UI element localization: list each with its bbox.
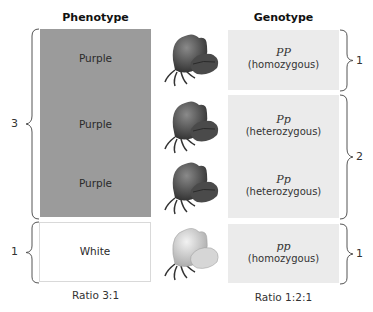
right-brace-1-icon bbox=[339, 29, 355, 92]
genotype-alleles: PP bbox=[228, 46, 339, 59]
left-brace-1-icon bbox=[24, 221, 40, 284]
phenotype-header: Phenotype bbox=[40, 11, 151, 24]
phenotype-count-white: 1 bbox=[11, 245, 18, 258]
genotype-cell: Pp (heterozygous) bbox=[228, 173, 339, 197]
phenotype-label: White bbox=[39, 245, 151, 257]
genotype-alleles: Pp bbox=[228, 113, 339, 126]
genotype-alleles: pp bbox=[228, 240, 339, 253]
genotype-zygosity: (homozygous) bbox=[228, 253, 339, 264]
phenotype-ratio: Ratio 3:1 bbox=[40, 289, 151, 301]
genotype-alleles: Pp bbox=[228, 173, 339, 186]
phenotype-label: Purple bbox=[40, 177, 151, 189]
genotype-count-PP: 1 bbox=[356, 54, 363, 67]
phenotype-label: Purple bbox=[40, 52, 151, 64]
genotype-zygosity: (heterozygous) bbox=[228, 186, 339, 197]
genotype-count-pp: 1 bbox=[356, 247, 363, 260]
genotype-cell: Pp (heterozygous) bbox=[228, 113, 339, 137]
white-flower-icon bbox=[163, 224, 223, 282]
genotype-zygosity: (heterozygous) bbox=[228, 126, 339, 137]
right-brace-2-icon bbox=[339, 94, 355, 220]
genotype-ratio: Ratio 1:2:1 bbox=[228, 291, 339, 303]
purple-flower-icon bbox=[163, 97, 223, 155]
right-brace-1b-icon bbox=[339, 223, 355, 285]
purple-flower-icon bbox=[163, 158, 223, 216]
left-brace-3-icon bbox=[24, 28, 40, 220]
genotype-cell: pp (homozygous) bbox=[228, 240, 339, 264]
genotype-zygosity: (homozygous) bbox=[228, 59, 339, 70]
genotype-count-Pp: 2 bbox=[356, 150, 363, 163]
phenotype-label: Purple bbox=[40, 118, 151, 130]
genotype-header: Genotype bbox=[228, 11, 339, 24]
purple-flower-icon bbox=[163, 30, 223, 88]
genotype-cell: PP (homozygous) bbox=[228, 46, 339, 70]
phenotype-count-purple: 3 bbox=[11, 117, 18, 130]
